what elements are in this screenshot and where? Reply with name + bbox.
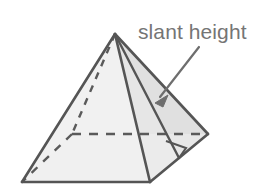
slant-height-label: slant height [138,21,247,42]
arrow-shaft [160,47,199,97]
diagram-canvas: slant height [0,0,274,191]
